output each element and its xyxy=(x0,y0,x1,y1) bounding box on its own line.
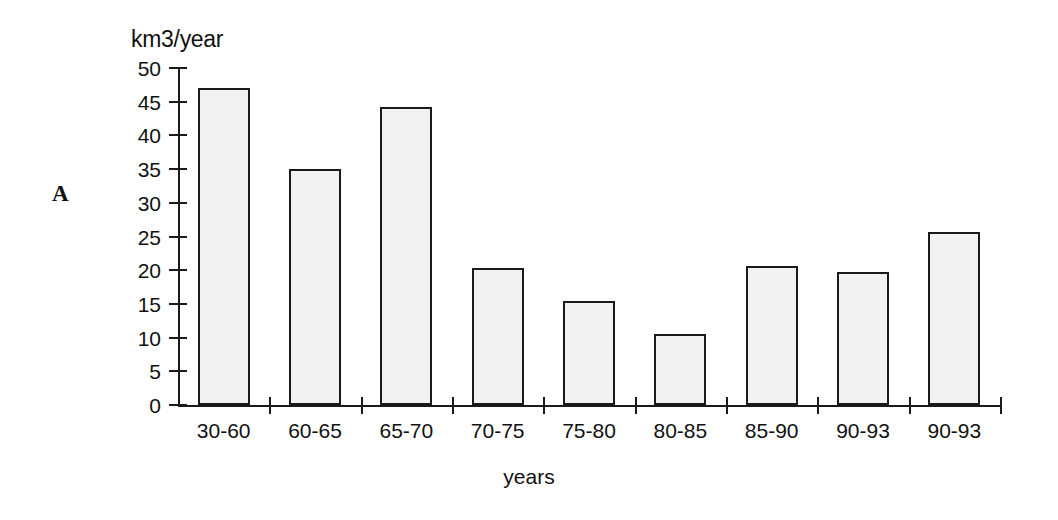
y-axis-tick-label: 5 xyxy=(149,361,161,382)
y-axis-tick-mark xyxy=(169,269,187,271)
bar xyxy=(472,268,524,405)
x-axis-title: years xyxy=(0,466,1058,487)
y-axis-tick-mark xyxy=(169,370,187,372)
x-axis-category-label: 80-85 xyxy=(653,420,707,441)
x-axis-tick-mark xyxy=(361,397,363,414)
bar xyxy=(654,334,706,405)
y-axis-tick-mark xyxy=(169,101,187,103)
x-axis-line xyxy=(178,405,1000,407)
x-axis-category-label: 60-65 xyxy=(288,420,342,441)
y-axis-tick-label: 25 xyxy=(138,226,161,247)
figure-panel-a: A km3/year 05101520253035404550 30-6060-… xyxy=(0,0,1058,520)
x-axis-category-label: 75-80 xyxy=(562,420,616,441)
bar xyxy=(289,169,341,405)
x-axis-tick-mark xyxy=(269,397,271,414)
x-axis-category-label: 70-75 xyxy=(471,420,525,441)
bar xyxy=(198,88,250,405)
x-axis-category-label: 30-60 xyxy=(197,420,251,441)
x-axis-end-tick xyxy=(1000,397,1002,414)
y-axis-tick-label: 45 xyxy=(138,91,161,112)
y-axis-tick-label: 20 xyxy=(138,260,161,281)
y-axis-tick-mark xyxy=(169,134,187,136)
y-axis-tick-label: 50 xyxy=(138,58,161,79)
y-axis-tick-label: 30 xyxy=(138,192,161,213)
x-axis-tick-mark xyxy=(543,397,545,414)
y-axis-title: km3/year xyxy=(131,28,223,51)
y-axis-tick-mark xyxy=(169,236,187,238)
x-axis-tick-mark xyxy=(726,397,728,414)
y-axis-tick-label: 35 xyxy=(138,159,161,180)
bar xyxy=(837,272,889,405)
bar xyxy=(746,266,798,405)
y-axis-tick-label: 40 xyxy=(138,125,161,146)
y-axis-tick-label: 15 xyxy=(138,293,161,314)
x-axis-tick-mark xyxy=(817,397,819,414)
x-axis-tick-mark xyxy=(452,397,454,414)
x-axis-category-label: 90-93 xyxy=(836,420,890,441)
x-axis-category-label: 85-90 xyxy=(745,420,799,441)
panel-letter-label: A xyxy=(52,182,69,205)
plot-area: 05101520253035404550 30-6060-6565-7070-7… xyxy=(178,68,1000,405)
y-axis-tick-mark xyxy=(169,303,187,305)
bar xyxy=(928,232,980,405)
x-axis-tick-mark xyxy=(909,397,911,414)
bar xyxy=(563,301,615,405)
x-axis-tick-mark xyxy=(635,397,637,414)
y-axis-tick-mark xyxy=(169,404,187,406)
y-axis-tick-mark xyxy=(169,67,187,69)
y-axis-tick-mark xyxy=(169,202,187,204)
y-axis-tick-mark xyxy=(169,168,187,170)
bar xyxy=(380,107,432,405)
x-axis-category-label: 65-70 xyxy=(379,420,433,441)
x-axis-category-label: 90-93 xyxy=(927,420,981,441)
y-axis-tick-label: 10 xyxy=(138,327,161,348)
y-axis-tick-label: 0 xyxy=(149,395,161,416)
y-axis-tick-mark xyxy=(169,337,187,339)
